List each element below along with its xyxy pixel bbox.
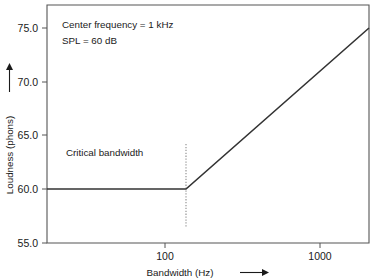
y-axis-title: Loudness (phons) xyxy=(4,116,15,194)
y-tick-label-75: 75.0 xyxy=(18,22,39,34)
y-tick-label-60: 60.0 xyxy=(18,183,39,195)
y-tick-label-65: 65.0 xyxy=(18,129,39,141)
annotation-spl: SPL = 60 dB xyxy=(62,35,117,46)
annotation-center-frequency: Center frequency = 1 kHz xyxy=(62,19,173,30)
chart-canvas: 75.0 70.0 65.0 60.0 55.0 100 1000 Bandwi… xyxy=(0,0,377,280)
x-axis-title: Bandwidth (Hz) xyxy=(147,267,214,278)
x-tick-label-100: 100 xyxy=(156,250,174,262)
loudness-bandwidth-chart: 75.0 70.0 65.0 60.0 55.0 100 1000 Bandwi… xyxy=(0,0,377,280)
x-tick-label-1000: 1000 xyxy=(308,250,332,262)
y-tick-label-55: 55.0 xyxy=(18,237,39,249)
y-tick-label-70: 70.0 xyxy=(18,76,39,88)
annotation-critical-bandwidth: Critical bandwidth xyxy=(66,147,143,158)
chart-background xyxy=(0,0,377,280)
